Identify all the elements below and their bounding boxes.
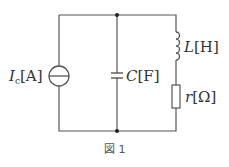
figure-caption: 図 1 bbox=[104, 140, 126, 156]
current-source-symbol bbox=[49, 66, 69, 86]
capacitor-symbol bbox=[111, 73, 123, 78]
resistor-symbol bbox=[172, 85, 180, 108]
node-bottom bbox=[115, 129, 119, 133]
inductor-label: L[H] bbox=[184, 40, 219, 55]
node-top bbox=[115, 13, 119, 17]
inductor-symbol bbox=[176, 32, 180, 60]
resistor-label: r[Ω] bbox=[185, 90, 216, 105]
current-source-label: Ic[A] bbox=[9, 69, 43, 86]
capacitor-label: C[F] bbox=[126, 69, 160, 84]
